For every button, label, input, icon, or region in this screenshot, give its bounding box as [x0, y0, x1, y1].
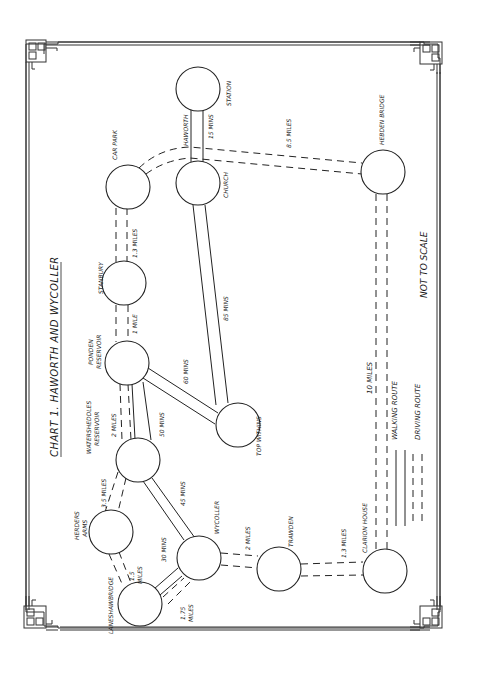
label-wycoller: WYCOLLER — [213, 501, 220, 534]
edge-carpark-stanbury — [116, 208, 127, 262]
corner-ornament-top-right — [410, 42, 442, 74]
label-herders-2: ARMS — [81, 520, 88, 538]
label-herders-1: HERDERS — [73, 511, 80, 540]
edge-label-station-church: 15 MINS — [207, 114, 214, 139]
label-laneshawbridge: LANESHAWBRIDGE — [107, 577, 114, 634]
not-to-scale-note: NOT TO SCALE — [419, 231, 429, 298]
legend-walking-line — [396, 450, 405, 526]
label-trawden: TRAWDEN — [287, 516, 294, 547]
edge-watersheddles-herders — [105, 472, 126, 512]
label-watersheddles-2: RESERVOIR — [93, 412, 100, 447]
edge-carpark-hebden — [139, 147, 362, 174]
node-watersheddles-reservoir — [116, 438, 160, 482]
label-station: STATION — [225, 80, 232, 106]
node-stanbury — [102, 261, 146, 305]
label-watersheddles-1: WATERSHEDDLES — [85, 401, 92, 454]
edge-label-watersheddles-herders: 3.5 MILES — [100, 478, 107, 508]
edge-label-church-hebden: 8.5 MILES — [285, 118, 292, 148]
legend-walking-label: WALKING ROUTE — [391, 380, 399, 440]
edge-ponden-watersheddles — [120, 382, 151, 440]
node-church — [176, 161, 220, 205]
label-ponden-2: RESERVOIR — [95, 335, 102, 370]
edge-trawden-clarion — [301, 562, 363, 576]
node-haworth-station — [176, 67, 220, 111]
chart-title: CHART 1. HAWORTH AND WYCOLLER — [49, 256, 60, 457]
edge-clarion-hebden — [376, 194, 387, 549]
edge-label-herders-laneshaw-2: MILES — [136, 566, 143, 584]
edge-wycoller-trawden — [221, 553, 258, 568]
edge-label-ponden-watersheddles-drive: 50 MINS — [158, 412, 165, 437]
corner-ornament-top-left — [26, 40, 60, 72]
edge-label-church-topwithins: 85 MINS — [222, 296, 229, 321]
label-church: CHURCH — [222, 172, 229, 198]
corner-ornament-bottom-left — [24, 596, 58, 630]
edge-stanbury-ponden — [116, 305, 128, 342]
edge-label-laneshaw-wycoller-walk-2: MILES — [187, 604, 194, 622]
label-stanbury: STANBURY — [97, 261, 104, 294]
node-clarion-house — [363, 549, 407, 593]
edge-label-laneshaw-wycoller-drive: 30 MINS — [160, 537, 167, 562]
edge-label-clarion-hebden: 10 MILES — [366, 361, 374, 394]
route-chart: CHART 1. HAWORTH AND WYCOLLER NOT TO SCA… — [0, 0, 479, 678]
edge-ponden-topwithins — [143, 368, 218, 424]
edge-label-stanbury-ponden: 1 MILE — [131, 314, 138, 334]
edge-station-church — [191, 108, 203, 162]
legend-driving-line — [413, 454, 422, 526]
node-hebden-bridge — [361, 150, 405, 194]
edge-label-ponden-topwithins: 60 MINS — [182, 359, 189, 384]
edge-label-carpark-stanbury: 1.3 MILES — [131, 228, 138, 258]
node-herders-arms — [89, 510, 133, 554]
edge-label-herders-laneshaw-1: 1.5 — [128, 571, 135, 581]
edge-label-ponden-watersheddles-walk: 2 MILES — [110, 413, 117, 437]
edge-watersheddles-wycoller — [143, 478, 195, 540]
edge-label-watersheddles-wycoller: 45 MINS — [179, 481, 186, 506]
label-clarion-house: CLARION HOUSE — [361, 503, 368, 553]
label-ponden-1: PONDEN — [87, 339, 94, 365]
node-ponden-reservoir — [105, 341, 149, 385]
label-car-park: CAR PARK — [111, 129, 118, 160]
node-laneshawbridge — [118, 582, 162, 626]
node-wycoller — [177, 536, 221, 580]
edge-label-wycoller-trawden: 2 MILES — [244, 526, 251, 550]
legend-driving-label: DRIVING ROUTE — [414, 383, 422, 440]
node-top-withins — [216, 403, 260, 447]
node-trawden — [257, 547, 301, 591]
label-haworth: HAWORTH — [182, 114, 189, 146]
edge-label-trawden-clarion: 1.3 MILES — [340, 528, 347, 558]
corner-ornament-bottom-right — [410, 596, 442, 630]
label-top-withins: TOP WITHINS — [255, 416, 262, 456]
label-hebden-bridge: HEBDEN BRIDGE — [378, 94, 385, 145]
edge-label-laneshaw-wycoller-walk-1: 1.75 — [179, 606, 186, 620]
node-car-park — [106, 165, 150, 209]
